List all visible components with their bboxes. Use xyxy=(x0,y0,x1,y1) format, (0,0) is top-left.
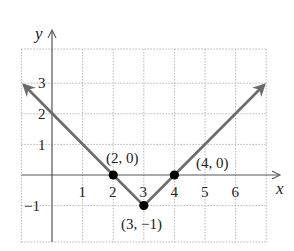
x-tick-1: 1 xyxy=(79,184,87,200)
point-3-minus-1 xyxy=(139,201,148,210)
point-label-3-minus-1: (3, −1) xyxy=(121,216,162,233)
y-tick-minus-1: −1 xyxy=(24,198,40,214)
point-label-4-0: (4, 0) xyxy=(196,155,229,172)
x-tick-2: 2 xyxy=(109,184,117,200)
point-label-2-0: (2, 0) xyxy=(106,150,139,167)
y-axis-label: y xyxy=(33,24,43,43)
grid xyxy=(21,49,266,242)
x-tick-6: 6 xyxy=(232,184,240,200)
x-axis-label: x xyxy=(275,179,284,198)
point-2-0 xyxy=(109,170,118,179)
x-tick-4: 4 xyxy=(171,184,179,200)
x-tick-5: 5 xyxy=(201,184,209,200)
axes xyxy=(21,30,280,242)
y-tick-2: 2 xyxy=(38,106,46,122)
y-tick-1: 1 xyxy=(38,137,46,153)
graph: x y 1 2 3 4 5 6 3 2 1 −1 (2, 0) (3, −1) … xyxy=(0,0,294,251)
x-tick-3: 3 xyxy=(140,184,148,200)
y-tick-3: 3 xyxy=(38,75,46,91)
point-4-0 xyxy=(170,170,179,179)
